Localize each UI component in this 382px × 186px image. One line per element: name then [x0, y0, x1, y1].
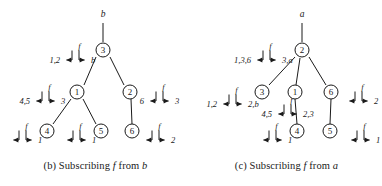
annotation-node-5-right-value: 1	[92, 135, 96, 145]
annotation-node-4-arrow-left-head	[263, 137, 268, 142]
root-label-b: b	[101, 9, 106, 19]
annotation-node-4-right-value: 1	[38, 135, 42, 145]
tree-diagram-b: bf1,2bf4,53f63f1f1f2312456	[0, 0, 191, 160]
caption-c: (c) Subscribing f from a	[191, 160, 382, 171]
nodes-group-c: 231645	[255, 43, 338, 138]
edge-1-5	[83, 99, 96, 124]
annotation-node-4-f-label: f	[25, 121, 29, 131]
edge-3-2	[110, 57, 124, 85]
annotation-node-2-f-label: f	[269, 41, 273, 51]
node-6-label: 6	[130, 126, 135, 136]
annotation-node-3-right-value: 2,b	[248, 99, 259, 109]
edges-group-b	[53, 23, 132, 124]
annotation-node-2-arrow-left-head	[257, 57, 262, 62]
annotation-node-5-f-label: f	[363, 121, 367, 131]
node-5-label: 5	[328, 126, 333, 136]
node-1-label: 1	[75, 87, 80, 97]
annotation-node-6-arrow-left-head	[146, 137, 151, 142]
edges-group-c	[269, 23, 331, 124]
annotation-node-1-arrow-right-head	[50, 98, 55, 103]
node-2-label: 2	[128, 87, 133, 97]
edge-2-1	[296, 58, 300, 85]
annotation-node-1-right-value: 3	[60, 96, 65, 106]
annotation-node-6-f-label: f	[158, 121, 162, 131]
annotation-node-3-left-value: 1,2	[206, 99, 217, 109]
panel-subscribing-from-b: bf1,2bf4,53f63f1f1f2312456 (b) Subscribi…	[0, 0, 191, 186]
annotation-node-2-f-label: f	[162, 82, 166, 92]
annotation-node-4-arrow-right-head	[27, 137, 32, 142]
annotation-node-6-arrow-left-head	[349, 98, 354, 103]
edge-2-6	[131, 99, 132, 124]
annotation-node-1-right-value: 2,3	[303, 109, 314, 119]
annotation-node-1-arrow-left-head	[36, 98, 41, 103]
annotation-node-3-left-value: 1,2	[49, 55, 60, 65]
annotation-node-2-arrow-right-head	[271, 57, 276, 62]
annotation-node-1-f-label: f	[48, 82, 52, 92]
annotation-node-3-arrow-left-head	[223, 101, 228, 106]
caption-b-italic-source: b	[142, 160, 147, 171]
annotation-node-2-arrow-left-head	[150, 98, 155, 103]
annotation-node-2-left-value: 1,3,6	[234, 55, 252, 65]
caption-b-prefix: (b) Subscribing	[44, 160, 113, 171]
node-6-label: 6	[329, 87, 334, 97]
node-3-label: 3	[260, 87, 265, 97]
annotation-node-6-f-label: f	[361, 82, 365, 92]
annotation-node-3-arrow-left-head	[66, 57, 71, 62]
caption-b-suffix: from	[116, 160, 142, 171]
annotation-node-6-arrow-right-head	[160, 137, 165, 142]
annotation-node-2-arrow-right-head	[164, 98, 169, 103]
caption-c-prefix: (c) Subscribing	[235, 160, 304, 171]
annotation-node-5-arrow-right-head	[81, 137, 86, 142]
annotation-node-5-arrow-right-head	[365, 137, 370, 142]
annotation-node-5-right-value: 1	[376, 135, 380, 145]
edge-1-4	[295, 99, 297, 124]
node-4-label: 4	[295, 126, 300, 136]
tree-diagram-c: af1,3,63,af1,22,bf4,52,3f2f1f1231645	[191, 0, 382, 160]
caption-c-italic-source: a	[333, 160, 338, 171]
node-2-label: 2	[300, 45, 305, 55]
annotation-node-3-arrow-right-head	[237, 101, 242, 106]
node-5-label: 5	[99, 126, 104, 136]
node-4-label: 4	[45, 126, 50, 136]
annotation-node-2-left-value: 6	[140, 96, 145, 106]
root-label-c: a	[300, 9, 305, 19]
annotation-node-3-right-value: b	[91, 55, 95, 65]
annotation-node-4-right-value: 1	[288, 135, 292, 145]
annotation-node-6-arrow-right-head	[363, 98, 368, 103]
caption-b: (b) Subscribing f from b	[0, 160, 191, 171]
annotation-node-6-right-value: 2	[374, 96, 379, 106]
annotation-node-6-right-value: 2	[171, 135, 176, 145]
annotation-node-1-left-value: 4,5	[19, 96, 30, 106]
annotation-node-1-left-value: 4,5	[261, 109, 272, 119]
caption-c-suffix: from	[307, 160, 333, 171]
annotation-node-2-right-value: 3,a	[281, 55, 293, 65]
node-1-label: 1	[293, 87, 298, 97]
annotation-node-3-f-label: f	[78, 41, 82, 51]
annotation-node-5-f-label: f	[79, 121, 83, 131]
annotation-node-3-f-label: f	[235, 85, 239, 95]
figure-container: bf1,2bf4,53f63f1f1f2312456 (b) Subscribi…	[0, 0, 382, 186]
node-3-label: 3	[101, 45, 106, 55]
panel-subscribing-from-a: af1,3,63,af1,22,bf4,52,3f2f1f1231645 (c)…	[191, 0, 382, 186]
annotation-node-1-arrow-left-head	[278, 111, 283, 116]
annotation-node-3-arrow-right-head	[80, 57, 85, 62]
annotation-node-2-right-value: 3	[174, 96, 179, 106]
annotation-node-4-arrow-right-head	[277, 137, 282, 142]
annotation-node-5-arrow-left-head	[67, 137, 72, 142]
edge-6-5	[330, 99, 331, 124]
edge-2-6	[309, 57, 326, 85]
annotation-node-5-arrow-left-head	[351, 137, 356, 142]
annotation-node-4-arrow-left-head	[13, 137, 18, 142]
annotation-node-4-f-label: f	[275, 121, 279, 131]
